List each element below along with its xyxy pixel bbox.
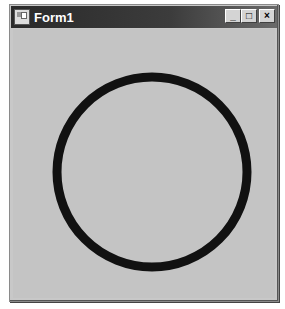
- drawing-canvas: [0, 0, 285, 309]
- circle-shape: [57, 77, 247, 267]
